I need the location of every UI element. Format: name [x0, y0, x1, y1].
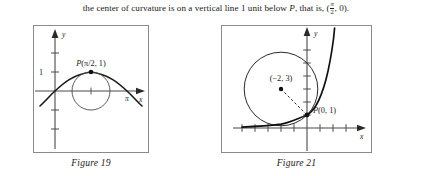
figure-21-block: (−2, 3) P(0, 1) y x Figure 21	[221, 25, 372, 153]
point-P-dot	[89, 70, 94, 75]
y-axis-arrowhead	[304, 27, 311, 36]
y-axis-arrowhead	[52, 29, 59, 38]
figure-21-graph: (−2, 3) P(0, 1) y x	[221, 25, 372, 153]
radius-dashed-line	[281, 89, 307, 115]
x-axis-arrowhead	[357, 125, 366, 131]
prose-part1: the center of curvature is on a vertical…	[83, 3, 289, 13]
y-axis-label: y	[61, 30, 66, 39]
point-P-label-rest: (π/2, 1)	[81, 59, 106, 68]
point-P-label: P(0, 1)	[312, 106, 336, 115]
point-P-label: P(π/2, 1)	[75, 59, 106, 68]
y-axis-label: y	[313, 29, 318, 38]
figure-19-caption: Figure 19	[27, 157, 155, 168]
figure-19-block: 1 P(π/2, 1) π y x Figure 19	[33, 25, 149, 153]
x-axis-label: x	[359, 132, 364, 141]
point-P-dot	[305, 113, 310, 118]
circle-center-dot	[279, 87, 283, 91]
x-tick-label-pi: π	[125, 94, 129, 103]
x-axis-label: x	[138, 95, 143, 104]
center-label: (−2, 3)	[270, 74, 293, 83]
prose-line: the center of curvature is on a vertical…	[0, 1, 432, 15]
figure-page: the center of curvature is on a vertical…	[0, 0, 432, 176]
y-tick-label-1: 1	[39, 68, 43, 77]
prose-part3: , 0).	[335, 3, 350, 13]
figure-19-graph: 1 P(π/2, 1) π y x	[33, 25, 149, 153]
figure-21-caption: Figure 21	[215, 157, 378, 168]
prose-part2: , that is, (	[295, 3, 330, 13]
x-axis-arrowhead	[136, 88, 145, 94]
point-P-label-rest: (0, 1)	[318, 106, 336, 115]
